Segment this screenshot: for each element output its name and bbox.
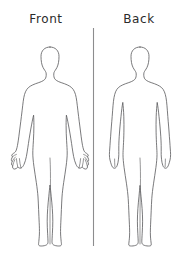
body-chart-diagram: Front Back	[0, 0, 185, 257]
human-body-outline-back	[109, 47, 170, 246]
human-body-outline-front	[11, 47, 88, 246]
body-figures-svg	[0, 0, 185, 257]
